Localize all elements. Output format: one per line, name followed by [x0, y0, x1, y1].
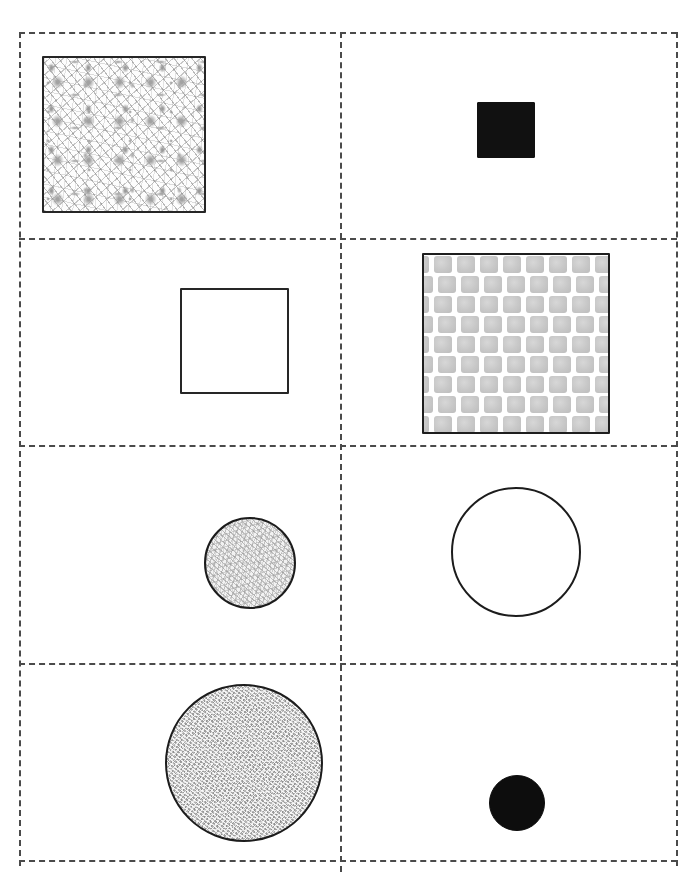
grid-divider-column-1	[340, 32, 342, 872]
stimulus-canvas	[0, 0, 696, 878]
brick-tile	[599, 356, 608, 373]
brick-tile	[595, 336, 608, 353]
brick-tile	[424, 316, 433, 333]
brick-tile	[461, 276, 479, 293]
brick-tile	[572, 336, 590, 353]
brick-tile	[434, 296, 452, 313]
brick-tile	[480, 416, 498, 432]
brick-tile	[599, 316, 608, 333]
brick-row	[424, 375, 608, 395]
brick-tile	[480, 376, 498, 393]
brick-tile	[530, 316, 548, 333]
brick-tile	[461, 316, 479, 333]
brick-tile	[424, 396, 433, 413]
brick-tile	[434, 256, 452, 273]
grid-divider-row-2	[19, 445, 677, 447]
brick-tile	[549, 416, 567, 432]
brick-tile	[457, 416, 475, 432]
brick-tile	[424, 416, 429, 432]
brick-tile	[595, 376, 608, 393]
brick-tile	[434, 416, 452, 432]
brick-row	[424, 295, 608, 315]
shape-square-large-light-texture[interactable]	[42, 56, 206, 213]
brick-tile	[553, 276, 571, 293]
brick-tile	[480, 256, 498, 273]
grid-border-left	[19, 32, 21, 866]
brick-tile	[572, 296, 590, 313]
brick-tile	[526, 256, 544, 273]
brick-tile	[553, 356, 571, 373]
grid-border-bottom	[19, 860, 677, 862]
brick-tile	[507, 356, 525, 373]
brick-tile	[595, 256, 608, 273]
brick-tile	[480, 336, 498, 353]
brick-tile	[434, 336, 452, 353]
brick-tile	[503, 256, 521, 273]
grid-divider-row-3	[19, 663, 677, 665]
brick-tile	[438, 396, 456, 413]
shape-circle-small-light-texture[interactable]	[204, 517, 296, 609]
brick-tile	[595, 296, 608, 313]
brick-row	[424, 275, 608, 295]
brick-tile	[576, 356, 594, 373]
brick-row	[424, 415, 608, 432]
brick-tile	[526, 336, 544, 353]
brick-tile	[530, 356, 548, 373]
brick-tile	[576, 276, 594, 293]
brick-tile	[424, 276, 433, 293]
brick-tile	[530, 396, 548, 413]
brick-tile	[507, 396, 525, 413]
brick-tile	[595, 416, 608, 432]
brick-row	[424, 255, 608, 275]
brick-tile	[484, 316, 502, 333]
brick-tile	[461, 356, 479, 373]
brick-row	[424, 335, 608, 355]
brick-tile	[457, 376, 475, 393]
brick-tile	[480, 296, 498, 313]
brick-tile	[572, 256, 590, 273]
brick-tile	[484, 356, 502, 373]
brick-row	[424, 395, 608, 415]
brick-tile	[526, 416, 544, 432]
brick-tile	[424, 336, 429, 353]
brick-tile	[503, 296, 521, 313]
brick-tile	[553, 396, 571, 413]
brick-tile	[599, 276, 608, 293]
brick-tile	[484, 276, 502, 293]
brick-tile	[576, 396, 594, 413]
brick-tile	[572, 416, 590, 432]
grid-border-top	[19, 32, 677, 34]
brick-tile	[549, 336, 567, 353]
brick-tile	[484, 396, 502, 413]
brick-tile	[461, 396, 479, 413]
brick-tile	[576, 316, 594, 333]
brick-tile	[507, 316, 525, 333]
brick-tile	[434, 376, 452, 393]
shape-square-large-brick-texture[interactable]	[422, 253, 610, 434]
brick-tile	[438, 356, 456, 373]
shape-square-small-solid-black[interactable]	[477, 102, 535, 158]
shape-circle-large-gray-texture[interactable]	[165, 684, 323, 842]
brick-tile	[503, 376, 521, 393]
brick-tile	[438, 276, 456, 293]
grid-divider-row-1	[19, 238, 677, 240]
brick-tile	[507, 276, 525, 293]
brick-tile	[549, 376, 567, 393]
brick-tile	[438, 316, 456, 333]
grid-border-right	[676, 32, 678, 866]
shape-square-medium-outline[interactable]	[180, 288, 289, 394]
brick-tile	[503, 416, 521, 432]
brick-pattern	[424, 255, 608, 432]
brick-tile	[503, 336, 521, 353]
brick-row	[424, 315, 608, 335]
shape-circle-large-outline[interactable]	[451, 487, 581, 617]
brick-tile	[553, 316, 571, 333]
brick-tile	[530, 276, 548, 293]
brick-tile	[424, 376, 429, 393]
brick-tile	[424, 296, 429, 313]
brick-tile	[526, 296, 544, 313]
shape-circle-small-solid-black[interactable]	[489, 775, 545, 831]
brick-tile	[599, 396, 608, 413]
brick-tile	[457, 296, 475, 313]
brick-row	[424, 355, 608, 375]
